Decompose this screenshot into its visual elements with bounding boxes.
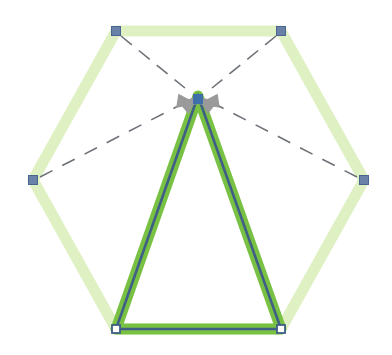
- marker-hex-right[interactable]: [360, 176, 369, 185]
- marker-hex-top-right[interactable]: [277, 27, 286, 36]
- guide-line-top-left: [121, 36, 185, 88]
- vertex-markers[interactable]: [29, 27, 369, 334]
- triangle-core-line: [116, 96, 281, 329]
- guide-line-left: [40, 102, 186, 177]
- guide-line-right: [211, 102, 357, 177]
- marker-tri-bottom-left[interactable]: [112, 325, 120, 333]
- marker-hex-left[interactable]: [29, 176, 38, 185]
- guide-line-top-right: [212, 36, 276, 88]
- triangle-shape[interactable]: [116, 96, 281, 329]
- hexagon-shape[interactable]: [33, 31, 364, 329]
- marker-hex-top-left[interactable]: [112, 27, 121, 36]
- marker-tri-apex[interactable]: [194, 95, 203, 104]
- marker-tri-bottom-right[interactable]: [277, 325, 285, 333]
- triangle-outline[interactable]: [116, 96, 281, 329]
- hexagon-outline[interactable]: [33, 31, 364, 329]
- geometry-diagram: [0, 0, 392, 355]
- diagram-canvas: [0, 0, 392, 355]
